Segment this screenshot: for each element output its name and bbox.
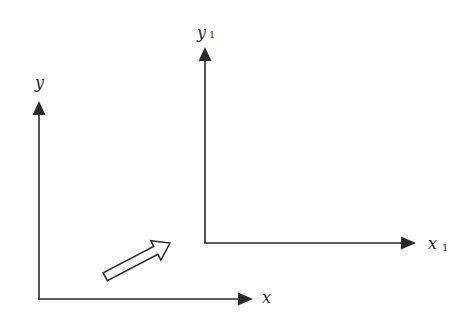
translated-y-subscript: 1 [209,29,215,40]
original-axes: y x [33,73,272,307]
translated-y-arrowhead-icon [199,47,212,61]
original-x-label: x [262,288,271,307]
translated-x-arrowhead-icon [401,237,416,250]
translation-arrow-icon [100,233,175,286]
translated-axes: y 1 x 1 [196,23,448,253]
translated-x-subscript: 1 [442,242,448,253]
translated-y-label: y [196,23,207,42]
original-x-arrowhead-icon [238,293,253,306]
coordinate-diagram: y x y 1 x 1 [0,0,471,322]
translated-x-label: x [428,234,437,253]
original-y-label: y [34,73,45,92]
original-y-arrowhead-icon [33,101,46,115]
